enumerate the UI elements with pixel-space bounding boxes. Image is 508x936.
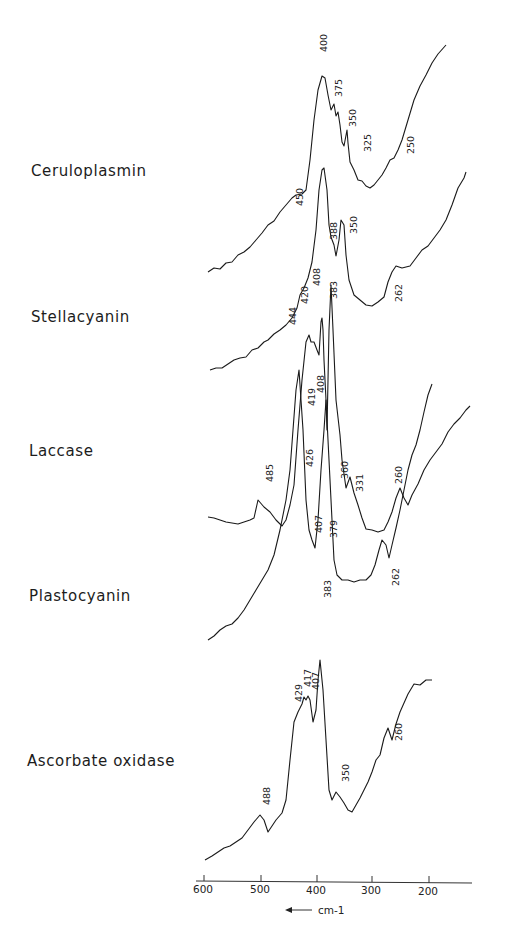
svg-text:408: 408: [311, 268, 322, 286]
peak-labels-ceruloplasmin: 400 375 350 325 250 450: [294, 34, 416, 206]
trace-laccase: [208, 285, 470, 532]
svg-text:444: 444: [287, 307, 298, 325]
trace-stellacyanin: [210, 168, 466, 370]
svg-text:388: 388: [328, 222, 339, 240]
svg-text:260: 260: [393, 466, 404, 484]
svg-text:325: 325: [362, 134, 373, 152]
svg-text:407: 407: [313, 515, 324, 533]
svg-text:350: 350: [348, 216, 359, 234]
peak-labels-ascorbate-oxidase: 429 417 407 488 350 260: [261, 669, 404, 805]
svg-text:500: 500: [250, 883, 270, 895]
svg-text:262: 262: [390, 568, 401, 586]
svg-text:383: 383: [322, 580, 333, 598]
trace-plastocyanin: [208, 370, 432, 640]
direction-arrow: [285, 907, 312, 913]
svg-text:488: 488: [261, 787, 272, 805]
peak-labels-plastocyanin: 407 379 383 262: [313, 515, 401, 598]
x-unit-label: cm-1: [318, 904, 344, 916]
svg-text:350: 350: [347, 109, 358, 127]
svg-text:400: 400: [306, 884, 326, 896]
svg-text:200: 200: [418, 885, 438, 897]
trace-ceruloplasmin: [208, 45, 446, 272]
raman-spectra-chart: 400 375 350 325 250 450 388 350 408 420 …: [0, 0, 508, 936]
peak-labels-stellacyanin: 388 350 408 420 444 383 262: [287, 216, 404, 325]
svg-text:600: 600: [193, 883, 213, 895]
svg-text:260: 260: [393, 723, 404, 741]
svg-text:350: 350: [340, 764, 351, 782]
peak-labels-laccase: 419 408 426 485 360 331 260: [264, 375, 404, 492]
svg-text:262: 262: [393, 284, 404, 302]
svg-text:331: 331: [354, 474, 365, 492]
svg-text:407: 407: [310, 672, 321, 690]
svg-text:379: 379: [328, 520, 339, 538]
svg-text:408: 408: [315, 375, 326, 393]
svg-text:383: 383: [328, 281, 339, 299]
svg-text:300: 300: [361, 884, 381, 896]
svg-text:420: 420: [299, 286, 310, 304]
svg-text:360: 360: [339, 461, 350, 479]
x-axis: 600 500 400 300 200 cm-1: [193, 875, 472, 916]
svg-text:485: 485: [264, 464, 275, 482]
svg-text:375: 375: [333, 79, 344, 97]
svg-text:250: 250: [405, 136, 416, 154]
svg-text:426: 426: [304, 449, 315, 467]
svg-text:450: 450: [294, 188, 305, 206]
svg-text:400: 400: [318, 34, 329, 52]
